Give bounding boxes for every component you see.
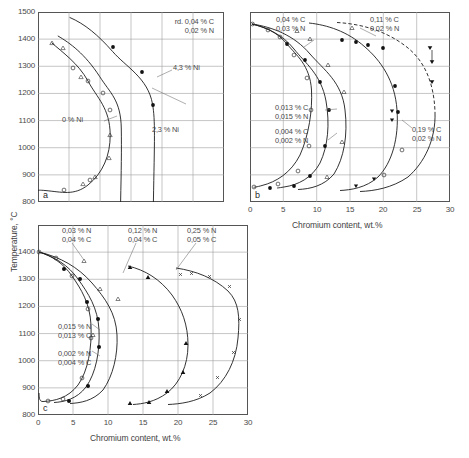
data-point: [101, 91, 105, 95]
data-point: [88, 178, 92, 182]
panel-c-ytick-1400: 1400: [8, 248, 35, 256]
curve-025n-005c: [168, 268, 239, 405]
data-point: [165, 389, 170, 393]
data-point: [342, 90, 346, 94]
panel-c-x-axis-title: Chromium content, wt.%: [90, 433, 180, 443]
data-point: [292, 53, 296, 57]
panel-c-letter: c: [43, 403, 48, 413]
panel-b-label-004c-003n: 0,04 % C 0,03 % N: [276, 16, 305, 33]
data-point: [62, 188, 66, 192]
data-point: [108, 108, 112, 112]
data-point: [381, 46, 385, 50]
panel-b-xtick-25: 25: [407, 206, 427, 214]
panel-c-graphics: [0, 213, 380, 458]
panel-a-letter: a: [43, 190, 48, 200]
data-point: [292, 184, 296, 188]
panel-a-composition-note: rd. 0,04 % C 0,02 % N: [118, 18, 214, 35]
panel-c-label-0015n-0013c: 0,015 % N 0,013 % C: [58, 323, 91, 340]
panel-c-ytick-1100: 1100: [8, 330, 35, 338]
panel-c-xtick-25: 25: [203, 419, 223, 427]
data-point: [303, 58, 307, 62]
data-point: [340, 38, 344, 42]
data-point: [61, 397, 65, 401]
panel-c-gridlines: [38, 225, 248, 415]
panel-b-label-011c-002n: 0,11 % C 0,02 % N: [370, 16, 399, 33]
data-point: [128, 401, 133, 405]
data-point: [78, 277, 82, 281]
panel-a-ytick-1100: 1100: [8, 117, 35, 125]
data-point: [350, 26, 354, 30]
data-point: [71, 66, 75, 70]
panel-b-letter: b: [255, 190, 260, 200]
panel-c-ytick-1000: 1000: [8, 357, 35, 365]
panel-b-graphics: [232, 0, 469, 240]
panel-a-ytick-900: 900: [8, 171, 35, 179]
data-point: [390, 119, 394, 123]
data-point: [296, 169, 300, 173]
panel-c-xtick-10: 10: [98, 419, 118, 427]
curve-019c-002n-upper: [337, 23, 435, 113]
data-point: [318, 80, 322, 84]
data-point: [79, 75, 83, 79]
data-point: [140, 70, 144, 74]
panel-a-ytick-800: 800: [8, 198, 35, 206]
panel-b-xtick-30: 30: [440, 206, 460, 214]
panel-a-ytick-1500: 1500: [8, 8, 35, 16]
panel-a-ytick-1400: 1400: [8, 35, 35, 43]
panel-c-xtick-0: 0: [28, 419, 48, 427]
panel-c-ytick-900: 900: [8, 384, 35, 392]
data-point: [390, 110, 394, 114]
data-point: [400, 148, 404, 152]
panel-a-ytick-1000: 1000: [8, 144, 35, 152]
data-point: [326, 63, 330, 67]
data-point: [308, 37, 312, 41]
panel-a-label-2-3-ni: 2,3 % Ni: [152, 126, 179, 135]
data-point: [96, 317, 100, 321]
data-point: [151, 103, 155, 107]
data-point: [325, 175, 329, 179]
panel-a-gridlines: [38, 12, 224, 202]
data-point: [276, 182, 280, 186]
panel-c: 1400 1300 1200 1100 1000 900 800 0,03 % …: [0, 213, 380, 458]
data-point: [97, 345, 101, 349]
data-point: [340, 140, 344, 144]
data-point: [430, 80, 435, 84]
panel-a-label-0-ni: 0 % Ni: [62, 116, 83, 125]
panel-c-xtick-15: 15: [133, 419, 153, 427]
panel-c-xtick-20: 20: [168, 419, 188, 427]
panel-a: 1500 1400 1300 1200 1100 1000 900 800 rd…: [0, 0, 232, 215]
data-point: [305, 76, 309, 80]
data-point: [67, 399, 71, 403]
data-point: [430, 60, 435, 64]
panel-c-label-012n-004c: 0,12 % N 0,04 % C: [128, 227, 157, 244]
panel-c-xtick-5: 5: [63, 419, 83, 427]
data-point: [323, 144, 327, 148]
panel-a-curves: [38, 17, 154, 202]
panel-c-ytick-800: 800: [8, 411, 35, 419]
data-point: [393, 84, 397, 88]
data-point: [366, 43, 370, 47]
data-point: [61, 46, 65, 50]
data-point: [98, 287, 102, 291]
data-point: [285, 42, 289, 46]
data-point: [116, 297, 120, 301]
panel-b-label-019c-002n: 0,19 % C 0,02 % N: [412, 126, 441, 143]
data-point: [268, 186, 272, 190]
panel-c-ytick-1200: 1200: [8, 302, 35, 310]
panel-c-ytick-1300: 1300: [8, 275, 35, 283]
data-point: [181, 370, 186, 374]
panel-a-ytick-1300: 1300: [8, 62, 35, 70]
curve-012n-004c: [128, 266, 188, 405]
data-point: [62, 267, 66, 271]
data-point: [354, 40, 358, 44]
data-point: [146, 275, 151, 279]
data-point: [308, 174, 312, 178]
data-point: [396, 110, 400, 114]
data-point: [86, 384, 90, 388]
panel-a-ytick-1200: 1200: [8, 89, 35, 97]
data-point: [85, 300, 89, 304]
figure-root: Temperature, °C: [0, 0, 469, 458]
data-point-cross-group: [179, 272, 241, 397]
panel-b: 0,04 % C 0,03 % N 0,11 % C 0,02 % N 0,01…: [232, 0, 469, 240]
panel-c-label-003n-004c: 0,03 % N 0,04 % C: [62, 227, 91, 244]
